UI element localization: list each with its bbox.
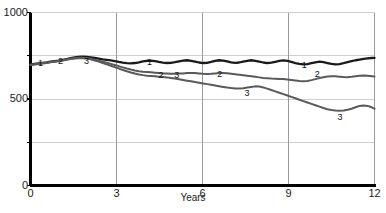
- figure-caption: [0, 206, 386, 213]
- series-label-2: 2: [315, 69, 320, 79]
- y-tick-label-1: 500: [0, 93, 28, 104]
- series-label-3: 3: [174, 70, 179, 80]
- series-label-3: 3: [338, 112, 343, 122]
- x-axis-title: Years: [0, 192, 386, 203]
- series-label-3: 3: [244, 88, 249, 98]
- chart-figure: 11122223333 10005000 036912 Years: [0, 0, 386, 213]
- series-label-2: 2: [217, 69, 222, 79]
- series-label-2: 2: [58, 56, 63, 66]
- series-label-2: 2: [158, 70, 163, 80]
- line-chart-canvas: 11122223333: [0, 0, 386, 213]
- series-label-3: 3: [84, 56, 89, 66]
- series-label-1: 1: [302, 60, 307, 70]
- series-inline-labels: 11122223333: [38, 56, 343, 122]
- y-tick-label-0: 1000: [0, 7, 28, 18]
- series-label-1: 1: [147, 57, 152, 67]
- series-label-1: 1: [38, 58, 43, 68]
